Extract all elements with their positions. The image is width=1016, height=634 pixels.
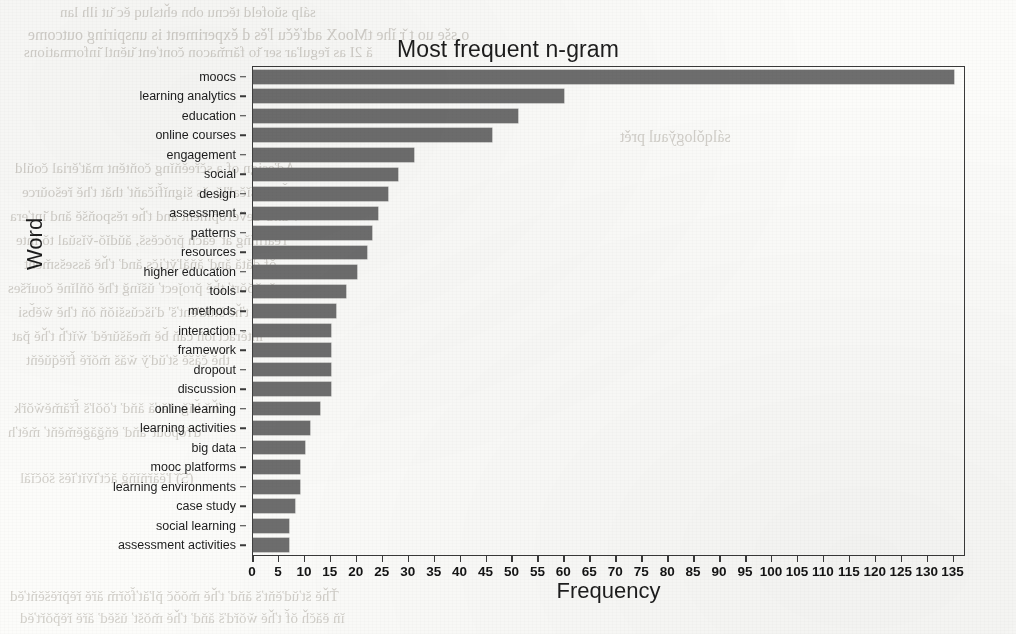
y-axis-tick-mark <box>240 271 246 273</box>
bar <box>253 343 331 357</box>
x-axis-tick-mark <box>797 556 799 562</box>
y-axis-tick-label: framework <box>178 343 236 357</box>
x-axis-tick-label: 110 <box>812 564 834 579</box>
bar <box>253 499 295 513</box>
x-axis-tick-mark <box>252 556 254 562</box>
bar <box>253 538 289 552</box>
bar <box>253 89 564 103</box>
x-axis-tick-label: 135 <box>941 564 964 579</box>
y-axis-tick-label: social <box>204 167 236 181</box>
x-axis-tick-label: 55 <box>530 564 545 579</box>
y-axis-tick-mark <box>240 486 246 488</box>
x-axis-tick-mark <box>511 556 513 562</box>
bar-chart-figure: Most frequent n-gram moocslearning analy… <box>0 0 1016 634</box>
y-axis-tick-label: learning activities <box>140 421 236 435</box>
x-axis-tick-label: 105 <box>786 564 809 579</box>
x-axis-tick-label: 50 <box>504 564 519 579</box>
x-axis-tick-mark <box>460 556 462 562</box>
bar <box>253 304 336 318</box>
x-axis-tick-mark <box>278 556 280 562</box>
y-axis-tick-mark <box>240 193 246 195</box>
y-axis-tick-mark <box>240 544 246 546</box>
x-axis-tick-label: 45 <box>478 564 493 579</box>
y-axis-tick-mark <box>240 154 246 156</box>
x-axis-tick-mark <box>693 556 695 562</box>
y-axis-tick-mark <box>240 76 246 78</box>
x-axis-tick-mark <box>875 556 877 562</box>
x-axis-tick-mark <box>849 556 851 562</box>
bar <box>253 460 300 474</box>
x-axis-tick-label: 130 <box>915 564 938 579</box>
y-axis-tick-mark <box>240 135 246 137</box>
x-axis-tick-label: 60 <box>556 564 571 579</box>
y-axis-tick-label: higher education <box>144 265 236 279</box>
bar <box>253 187 388 201</box>
bar <box>253 402 320 416</box>
y-axis-tick-mark <box>240 174 246 176</box>
y-axis-tick-label: assessment activities <box>118 538 236 552</box>
y-axis-tick-mark <box>240 408 246 410</box>
y-axis-tick-mark <box>240 96 246 98</box>
y-axis-tick-mark <box>240 115 246 117</box>
x-axis-tick-mark <box>330 556 332 562</box>
x-axis-tick-mark <box>667 556 669 562</box>
y-axis-tick-label: engagement <box>166 148 236 162</box>
y-axis-tick-labels: moocslearning analyticseducationonline c… <box>0 67 246 555</box>
x-axis-tick-label: 15 <box>322 564 337 579</box>
x-axis-tick-mark <box>356 556 358 562</box>
x-axis-tick-label: 95 <box>738 564 753 579</box>
y-axis-tick-mark <box>240 447 246 449</box>
bar <box>253 480 300 494</box>
x-axis-tick-label: 35 <box>426 564 441 579</box>
bar <box>253 285 346 299</box>
x-axis-tick-label: 25 <box>374 564 389 579</box>
x-axis-tick-label: 70 <box>608 564 623 579</box>
y-axis-tick-label: patterns <box>191 226 236 240</box>
y-axis-tick-label: moocs <box>199 70 236 84</box>
y-axis-tick-mark <box>240 291 246 293</box>
bar <box>253 148 414 162</box>
x-axis-tick-mark <box>901 556 903 562</box>
bar <box>253 226 372 240</box>
x-axis-tick-mark <box>434 556 436 562</box>
x-axis-tick-label: 0 <box>248 564 256 579</box>
y-axis-tick-mark <box>240 310 246 312</box>
y-axis-tick-label: mooc platforms <box>151 460 236 474</box>
x-axis-title: Frequency <box>252 578 965 604</box>
x-axis-tick-mark <box>486 556 488 562</box>
x-axis-tick-label: 125 <box>889 564 912 579</box>
bar <box>253 207 378 221</box>
x-axis-tick-label: 20 <box>348 564 363 579</box>
bar <box>253 128 492 142</box>
y-axis-tick-label: dropout <box>194 363 236 377</box>
y-axis-tick-label: online learning <box>155 402 236 416</box>
y-axis-tick-label: interaction <box>178 324 236 338</box>
y-axis-tick-mark <box>240 427 246 429</box>
y-axis-title: Word <box>22 218 48 270</box>
x-axis-tick-label: 10 <box>296 564 311 579</box>
y-axis-tick-mark <box>240 505 246 507</box>
x-axis-tick-label: 5 <box>274 564 282 579</box>
y-axis-tick-mark <box>240 213 246 215</box>
x-axis-tick-mark <box>615 556 617 562</box>
y-axis-tick-mark <box>240 232 246 234</box>
y-axis-tick-mark <box>240 330 246 332</box>
x-axis-tick-mark <box>641 556 643 562</box>
x-axis-tick-label: 80 <box>660 564 675 579</box>
y-axis-tick-label: discussion <box>178 382 236 396</box>
y-axis-tick-label: social learning <box>156 519 236 533</box>
bar <box>253 70 954 84</box>
bar <box>253 324 331 338</box>
x-axis-tick-mark <box>589 556 591 562</box>
y-axis-tick-label: assessment <box>169 206 236 220</box>
x-axis-tick-mark <box>563 556 565 562</box>
bar <box>253 421 310 435</box>
x-axis-tick-mark <box>537 556 539 562</box>
x-axis-tick-label: 120 <box>864 564 887 579</box>
bar <box>253 265 357 279</box>
bar <box>253 382 331 396</box>
x-axis-tick-mark <box>953 556 955 562</box>
bar <box>253 168 398 182</box>
x-axis-tick-mark <box>304 556 306 562</box>
y-axis-tick-mark <box>240 369 246 371</box>
